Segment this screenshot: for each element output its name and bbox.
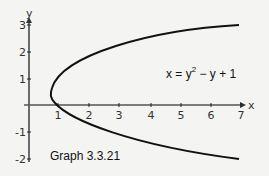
x-tick-label: 4 — [148, 109, 155, 122]
y-axis-label: y — [26, 7, 33, 20]
graph-canvas: 3 2 1 -1 -2 1 2 3 4 5 6 7 x y x = y2 − y… — [0, 0, 269, 176]
equation-rhs: − y + 1 — [196, 67, 236, 81]
x-tick-label: 7 — [238, 109, 245, 122]
y-tick-label: 1 — [19, 73, 26, 86]
x-tick-label: 5 — [178, 109, 185, 122]
x-tick-label: 6 — [208, 109, 215, 122]
x-tick-label: 2 — [86, 109, 93, 122]
y-tick-label: -1 — [15, 126, 26, 139]
equation-label: x = y2 − y + 1 — [166, 65, 236, 81]
y-tick-label: 2 — [19, 46, 26, 59]
y-tick-label: 3 — [19, 19, 26, 32]
y-tick-label: -2 — [15, 153, 26, 166]
graph-caption: Graph 3.3.21 — [50, 149, 120, 163]
x-tick-label: 1 — [55, 109, 62, 122]
x-tick-label: 3 — [116, 109, 123, 122]
x-axis-label: x — [248, 99, 255, 112]
parabola-curve — [51, 25, 239, 159]
equation-lhs: x = y — [166, 67, 192, 81]
axes — [24, 17, 246, 162]
